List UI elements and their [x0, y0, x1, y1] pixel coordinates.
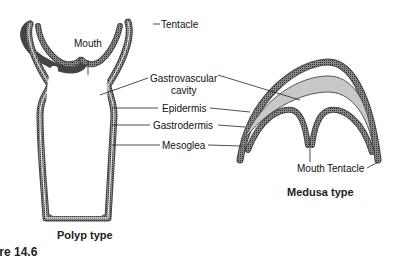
polyp-body: [24, 22, 130, 218]
gastrodermis-label: Gastrodermis: [153, 120, 213, 131]
medusa-caption: Medusa type: [287, 186, 354, 198]
polyp-mouth-label: Mouth: [74, 38, 102, 49]
leader-lines: [88, 24, 378, 168]
polyp-tentacle-label: Tentacle: [161, 19, 198, 30]
epidermis-label: Epidermis: [162, 103, 206, 114]
medusa-mouth-label: Mouth: [297, 163, 325, 174]
polyp-caption: Polyp type: [57, 229, 113, 241]
mesoglea-label: Mesoglea: [162, 140, 205, 151]
medusa-tentacle-label: Tentacle: [327, 163, 364, 174]
cavity-label: cavity: [171, 85, 197, 96]
medusa-body: [240, 62, 378, 160]
figure-caption: ure 14.6: [0, 245, 37, 259]
gastrovascular-label: Gastrovascular: [150, 73, 217, 84]
